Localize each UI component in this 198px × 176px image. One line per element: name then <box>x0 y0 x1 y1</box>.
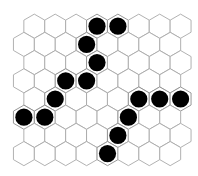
black-stone-icon <box>88 54 105 71</box>
black-stone-icon <box>120 109 137 126</box>
black-stone-icon <box>47 90 64 107</box>
black-stone-icon <box>15 109 32 126</box>
black-stone-icon <box>88 18 105 35</box>
black-stone-icon <box>109 18 126 35</box>
black-stone-icon <box>99 145 116 162</box>
black-stone-icon <box>78 36 95 53</box>
black-stone-icon <box>36 109 53 126</box>
black-stone-icon <box>172 90 189 107</box>
black-stone-icon <box>130 90 147 107</box>
black-stone-icon <box>57 72 74 89</box>
hex-cells <box>13 14 191 166</box>
black-stone-icon <box>109 127 126 144</box>
black-stone-icon <box>151 90 168 107</box>
black-stone-icon <box>78 72 95 89</box>
hex-board <box>0 0 198 176</box>
